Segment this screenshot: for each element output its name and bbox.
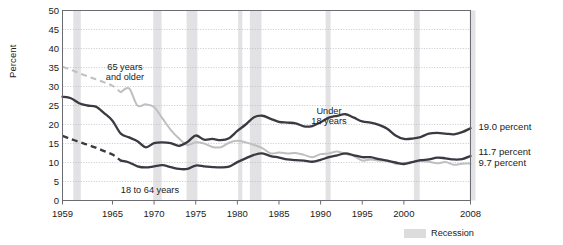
series-label-65-line1: 65 years [106, 62, 144, 73]
x-axis-tick-label: 1970 [144, 209, 165, 219]
poverty-rate-line-chart: Percent 50454035302520151050 19591965197… [0, 0, 563, 245]
x-axis-tick-label: 1985 [268, 209, 289, 219]
series-label-65-line2: and older [106, 72, 144, 83]
x-axis-tick-label: 1975 [185, 209, 206, 219]
x-axis-tick-label: 1990 [310, 209, 331, 219]
x-axis-tick-label: 1995 [352, 209, 373, 219]
series-label-65-and-older: 65 years and older [106, 62, 144, 83]
recession-swatch-icon [404, 229, 426, 238]
end-label-under-18: 19.0 percent [479, 122, 532, 133]
series-label-under-18: Under 18 years [311, 106, 346, 127]
x-axis-tick-label: 1965 [102, 209, 123, 219]
legend-recession: Recession [404, 228, 474, 238]
series-label-under18-line1: Under [311, 106, 346, 117]
x-axis-tick-label: 2000 [393, 209, 414, 219]
legend-label-recession: Recession [431, 228, 474, 238]
x-axis-tick-label: 1980 [227, 209, 248, 219]
x-axis-tick-label: 2008 [460, 209, 481, 219]
end-label-65-and-older: 9.7 percent [479, 158, 527, 169]
end-label-18-to-64: 11.7 percent [479, 147, 531, 158]
series-label-18-to-64: 18 to 64 years [121, 185, 179, 196]
series-label-under18-line2: 18 years [311, 116, 346, 127]
x-axis-tick-label: 1959 [52, 209, 73, 219]
